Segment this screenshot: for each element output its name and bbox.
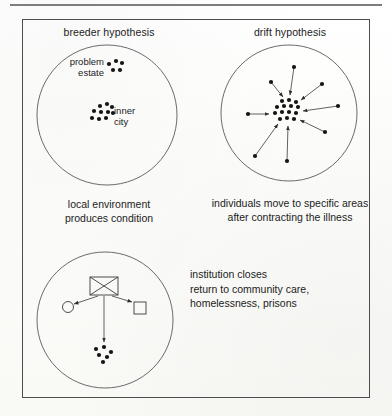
problem-estate-label: problem estate — [56, 56, 104, 78]
institution-outcome-text: institution closes return to community c… — [190, 267, 370, 311]
breeder-panel-caption: local environment produces condition — [36, 197, 182, 225]
breeder-panel-title: breeder hypothesis — [44, 26, 174, 38]
drift-panel-caption: individuals move to specific areas after… — [199, 196, 381, 224]
drift-panel-title: drift hypothesis — [225, 26, 355, 38]
inner-city-label: inner city — [114, 105, 158, 127]
figure-root: breeder hypothesis drift hypothesis prob… — [0, 0, 392, 416]
top-horizontal-rule — [10, 4, 382, 6]
